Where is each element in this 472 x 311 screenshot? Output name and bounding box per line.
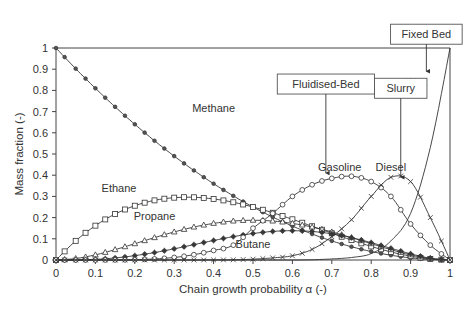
dot-marker (74, 67, 78, 71)
series-label-methane: Methane (192, 102, 235, 114)
annotation-label: Slurry (386, 82, 415, 94)
y-tick-label: 0.7 (33, 106, 48, 118)
x-tick-label: 0 (53, 267, 59, 279)
square-marker (113, 212, 118, 217)
series-labels: MethaneEthanePropaneButaneGasolineDiesel… (102, 76, 428, 250)
y-tick-label: 0.1 (33, 233, 48, 245)
x-marker (428, 215, 433, 220)
x-marker (369, 194, 374, 199)
circle-marker (300, 188, 305, 193)
square-marker (83, 230, 88, 235)
y-tick-label: 0.5 (33, 148, 48, 160)
square-marker (260, 207, 265, 212)
square-marker (93, 223, 98, 228)
x-marker (389, 175, 394, 180)
series-label-butane: Butane (236, 238, 271, 250)
x-tick-label: 0.7 (324, 267, 339, 279)
star-marker (152, 250, 158, 256)
dot-marker (330, 239, 334, 243)
x-marker (339, 226, 344, 231)
square-marker (152, 198, 157, 203)
x-marker (408, 179, 413, 184)
star-marker (220, 235, 226, 241)
star-marker (299, 228, 305, 234)
circle-marker (310, 182, 315, 187)
square-marker (122, 207, 127, 212)
square-marker (191, 195, 196, 200)
dot-marker (222, 188, 226, 192)
square-marker (162, 196, 167, 201)
circle-marker (270, 211, 275, 216)
y-axis-label: Mass fraction (-) (13, 112, 25, 195)
x-tick-label: 0.9 (403, 267, 418, 279)
series-label-gasoline: Gasoline (318, 161, 361, 173)
dot-marker (143, 131, 147, 135)
dot-marker (232, 194, 236, 198)
circle-marker (172, 255, 177, 260)
square-marker (231, 200, 236, 205)
square-marker (251, 205, 256, 210)
x-marker (310, 247, 315, 252)
annotation-label: Fixed Bed (402, 28, 452, 40)
x-tick-label: 0.6 (285, 267, 300, 279)
y-tick-label: 0 (42, 254, 48, 266)
y-tick-label: 0.4 (33, 169, 48, 181)
star-marker (270, 228, 276, 234)
square-marker (182, 195, 187, 200)
star-marker (171, 246, 177, 252)
dot-marker (94, 86, 98, 90)
circle-marker (152, 257, 157, 262)
x-marker (320, 241, 325, 246)
x-marker (300, 251, 305, 256)
star-marker (280, 228, 286, 234)
circle-marker (428, 243, 433, 248)
square-marker (62, 249, 67, 254)
circle-marker (251, 226, 256, 231)
dot-marker (340, 242, 344, 246)
dot-marker (192, 169, 196, 173)
series-label-diesel: Diesel (376, 161, 407, 173)
y-tick-label: 0.8 (33, 84, 48, 96)
x-tick-label: 1 (447, 267, 453, 279)
x-marker (418, 195, 423, 200)
star-marker (250, 231, 256, 237)
circle-marker (280, 202, 285, 207)
circle-marker (439, 252, 444, 257)
dot-marker (113, 105, 117, 109)
star-marker (191, 242, 197, 248)
triangle-marker (250, 217, 256, 222)
y-tick-label: 0.9 (33, 63, 48, 75)
dot-marker (320, 236, 324, 240)
circle-marker (359, 175, 364, 180)
circle-marker (260, 218, 265, 223)
dot-marker (360, 247, 364, 251)
annotation-label: Fluidised-Bed (292, 78, 359, 90)
circle-marker (389, 194, 394, 199)
square-marker (73, 238, 78, 243)
circle-marker (418, 233, 423, 238)
dot-marker (54, 46, 58, 50)
circle-marker (290, 194, 295, 199)
circle-marker (211, 248, 216, 253)
y-tick-label: 0.3 (33, 190, 48, 202)
circle-marker (192, 252, 197, 257)
star-marker (211, 237, 217, 243)
dot-marker (182, 162, 186, 166)
x-marker (439, 239, 444, 244)
x-tick-label: 0.4 (206, 267, 221, 279)
star-marker (289, 228, 295, 234)
dot-marker (63, 55, 67, 59)
dot-marker (123, 114, 127, 118)
star-marker (161, 248, 167, 254)
circle-marker (329, 176, 334, 181)
circle-marker (320, 179, 325, 184)
circle-marker (349, 174, 354, 179)
x-tick-label: 0.5 (245, 267, 260, 279)
series-label-ethane: Ethane (102, 182, 137, 194)
star-marker (181, 244, 187, 250)
dot-marker (172, 154, 176, 158)
annotations: Fluidised-BedSlurryFixed Bed (277, 24, 462, 177)
star-marker (201, 240, 207, 246)
circle-marker (398, 207, 403, 212)
x-tick-label: 0.2 (127, 267, 142, 279)
